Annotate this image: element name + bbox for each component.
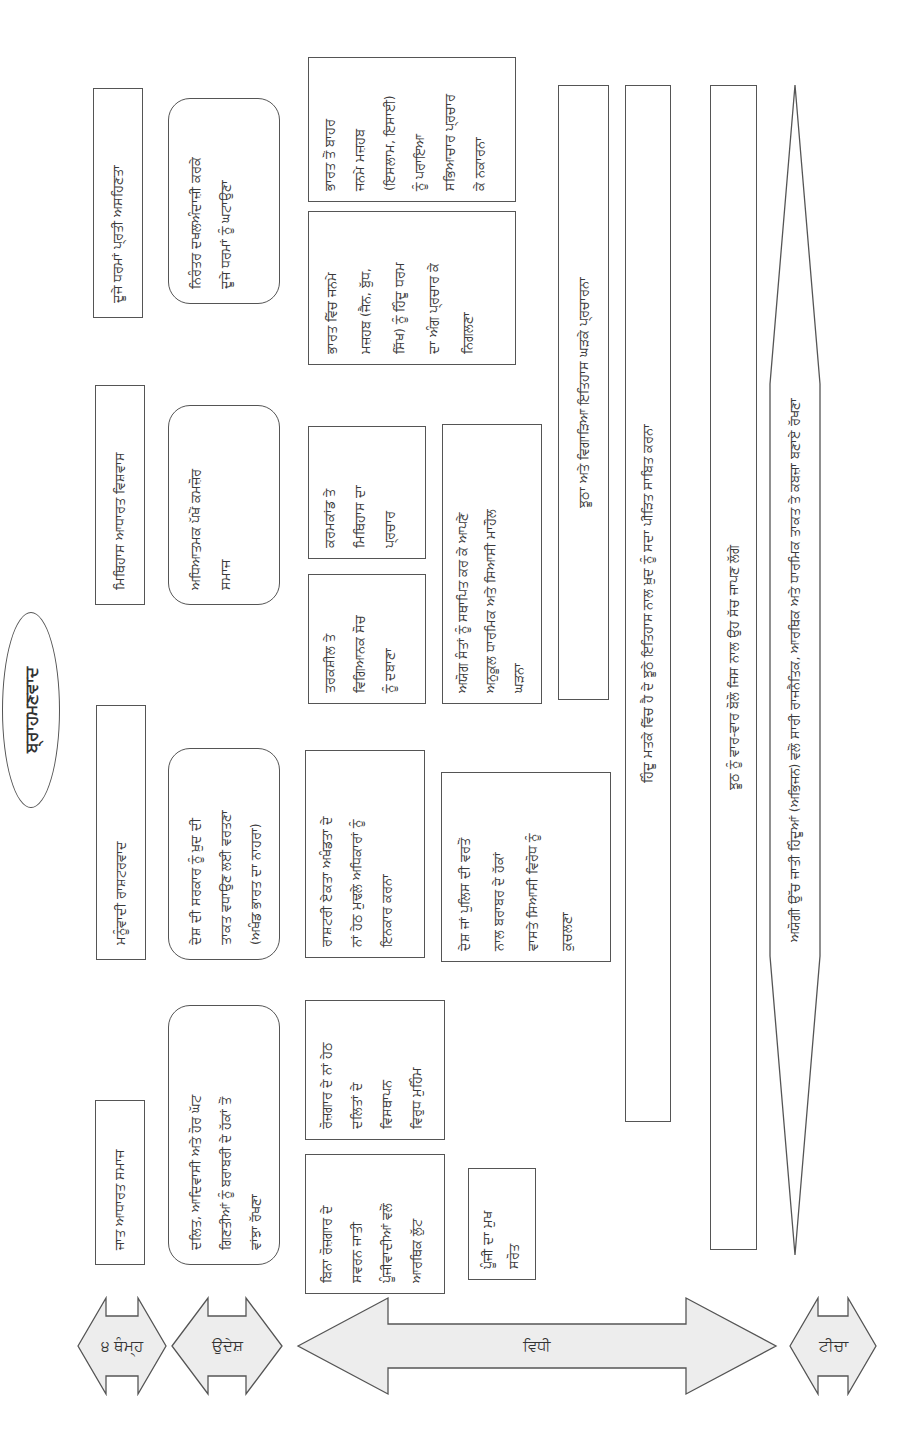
method-line: ਕਰਮਕਾਂਡ ਤੇ (315, 437, 345, 548)
objective-line: ਅਧਿਆਤਮਕ ਪੱਖੋਂ ਕਮਜ਼ੋਰ (181, 420, 211, 590)
method-line: ਪੂੰਜੀ ਦਾ ਮੁਖ (475, 1179, 501, 1269)
method-line: ਆਰਥਿਕ ਲੁੱਟ (402, 1165, 432, 1283)
objective-line: ਨਿਰੰਤਰ ਦਖਲਅੰਦਾਜ਼ੀ ਕਰਕੇ (181, 113, 211, 289)
method-line: ਸਭਿਆਚਾਰ ਪ੍ਰਚਾਰ (435, 68, 465, 191)
objective-reduce-other-religions: ਨਿਰੰਤਰ ਦਖਲਅੰਦਾਜ਼ੀ ਕਰਕੇ ਦੂਜੇ ਧਰਮਾਂ ਨੂੰ ਘਟ… (168, 98, 280, 304)
pillar-label: ਮਨੂੰਵਾਦੀ ਰਾਸ਼ਟਰਵਾਦ (113, 841, 129, 945)
objective-line: ਤਾਕਤ ਵਧਾਉਣ ਲਈ ਵਰਤਣਾ (211, 763, 241, 945)
method-line: ਤਰਕਸ਼ੀਲ ਤੇ (315, 585, 345, 693)
method-line: ਕੇ ਨਕਾਰਨਾ (465, 68, 495, 191)
method-line: ਅਨੁਕੂਲ ਧਾਰਮਿਕ ਅਤੇ ਸਿਆਸੀ ਮਾਹੌਲ (477, 435, 505, 693)
bar-label: ਝੂਠ ਨੂੰ ਵਾਰ-ਵਾਰ ਬੋਲੋ ਜਿਸ ਨਾਲ ਉਹ ਸੱਚ ਜਾਪਣ… (726, 545, 742, 790)
method-deny-basic-rights: ਰਾਸ਼ਟਰੀ ਏਕਤਾ ਅਖੰਡਤਾ ਦੇ ਨਾਂ ਹੇਠ ਮੁਢਲੇ ਅਧਿ… (305, 750, 425, 958)
method-line: ਘੜਨਾ (505, 435, 533, 693)
method-line: ਕੁਚਲਣਾ (550, 783, 584, 951)
method-economic-loot: ਬਿਨਾ ਰੋਜ਼ਗਾਰ ਦੇ ਸਵਰਨ ਜਾਤੀ ਪੂੰਜੀਵਾਦੀਆਂ ਵਲ… (305, 1154, 445, 1294)
objective-line: ਸਮਾਜ (211, 420, 241, 590)
objective-weak-society: ਅਧਿਆਤਮਕ ਪੱਖੋਂ ਕਮਜ਼ੋਰ ਸਮਾਜ (168, 405, 280, 605)
method-line: ਸਰੋਤ (501, 1179, 527, 1269)
method-crush-opposition: ਦੇਸ਼ ਜਾਂ ਪੁਲਿਸ ਦੀ ਵਰਤੋਂ ਨਾਲ ਬਰਾਬਰ ਦੇ ਹੱਕ… (441, 772, 611, 962)
objective-use-government: ਦੇਸ਼ ਦੀ ਸਰਕਾਰ ਨੂੰ ਖ਼ੁਦ ਦੀ ਤਾਕਤ ਵਧਾਉਣ ਲਈ … (168, 748, 280, 960)
method-line: ਮਿਥਿਹਾਸ ਦਾ (345, 437, 375, 548)
bar-victimhood-narrative: ਹਿੰਦੂ ਮਤਕੇ ਵਿੱਚ ਹੈ ਦੇ ਝੂਠੇ ਇਤਿਹਾਸ ਨਾਲ ਖ਼… (625, 85, 671, 1122)
method-line: ਇਨਕਾਰ ਕਰਨਾ (372, 761, 402, 947)
target-arrow: ਟੀਚਾ (788, 1296, 878, 1396)
bar-label: ਹਿੰਦੂ ਮਤਕੇ ਵਿੱਚ ਹੈ ਦੇ ਝੂਠੇ ਇਤਿਹਾਸ ਨਾਲ ਖ਼… (640, 424, 656, 784)
method-arrow: ਵਿਧੀ (296, 1296, 778, 1396)
objective-line: ਦਲਿਤ, ਆਦਿਵਾਸੀ ਅਤੇ ਹੋਰ ਘੱਟ (181, 1020, 211, 1250)
objectives-arrow: ਉਦੇਸ਼ (170, 1296, 284, 1396)
method-line: ਪ੍ਰਚਾਰ (375, 437, 405, 548)
method-line: ਰੋਜ਼ਗਾਰ ਦੇ ਨਾਂ ਹੇਠ (312, 1011, 342, 1129)
method-line: ਨੂੰ ਦਬਾਣਾ (375, 585, 405, 693)
method-line: ਨਾਲ ਬਰਾਬਰ ਦੇ ਹੱਕਾਂ (482, 783, 516, 951)
method-ritual-propaganda: ਕਰਮਕਾਂਡ ਤੇ ਮਿਥਿਹਾਸ ਦਾ ਪ੍ਰਚਾਰ (308, 426, 426, 559)
method-line: ਅਯੋਗ ਸੰਤਾਂ ਨੂੰ ਸਥਾਪਿਤ ਕਰ ਕੇ ਆਪਣੇ (449, 435, 477, 693)
method-absorb-indian-religions: ਭਾਰਤ ਵਿੱਚ ਜਨਮੇ ਮਜ਼ਹਬ (ਜੈਨ, ਬੁੱਧ, ਸਿੱਖ) ਨ… (308, 211, 516, 365)
method-line: ਮਜ਼ਹਬ (ਜੈਨ, ਬੁੱਧ, (349, 222, 383, 354)
method-line: ਨਾਂ ਹੇਠ ਮੁਢਲੇ ਅਧਿਕਾਰਾਂ ਨੂੰ (342, 761, 372, 947)
bar-repeat-lies: ਝੂਠ ਨੂੰ ਵਾਰ-ਵਾਰ ਬੋਲੋ ਜਿਸ ਨਾਲ ਉਹ ਸੱਚ ਜਾਪਣ… (710, 85, 757, 1250)
objective-line: ਵਾਂਝਾ ਰੱਖਣਾ (241, 1020, 271, 1250)
method-line: ਸਿੱਖ) ਨੂੰ ਹਿੰਦੂ ਧਰਮ (383, 222, 417, 354)
bar-false-history: ਝੂਠਾ ਅਤੇ ਵਿਗਾੜਿਆ ਇਤਿਹਾਸ ਘੜਕੇ ਪ੍ਰਚਾਰਨਾ (558, 85, 609, 700)
method-line: (ਇਸਲਾਮ, ਇਸਾਈ) (375, 68, 405, 191)
pillar-label: ਜਾਤ ਆਧਾਰਤ ਸਮਾਜ (112, 1150, 128, 1250)
method-line: ਦੇਸ਼ ਜਾਂ ਪੁਲਿਸ ਦੀ ਵਰਤੋਂ (448, 783, 482, 951)
diagram-title: ਬ੍ਰਾਹਮਣਵਾਦ (2, 612, 60, 808)
method-line: ਬਿਨਾ ਰੋਜ਼ਗਾਰ ਦੇ (312, 1165, 342, 1283)
method-line: ਦਲਿਤਾਂ ਦੇ (342, 1011, 372, 1129)
method-line: ਜਨਮੇ ਮਜ਼ਹਬ (345, 68, 375, 191)
objective-line: (ਅਖੰਡ ਭਾਰਤ ਦਾ ਨਾਹਰਾ) (241, 763, 271, 945)
pillars-arrow-label: ੪ ਥੰਮ੍ਹ (72, 1300, 172, 1392)
method-line: ਭਾਰਤ ਵਿੱਚ ਜਨਮੇ (315, 222, 349, 354)
method-line: ਭਾਰਤ ਤੋਂ ਬਾਹਰ (315, 68, 345, 191)
method-capital-source: ਪੂੰਜੀ ਦਾ ਮੁਖ ਸਰੋਤ (468, 1168, 536, 1280)
method-suppress-rational-thought: ਤਰਕਸ਼ੀਲ ਤੇ ਵਿਗਿਆਨਕ ਸੋਚ ਨੂੰ ਦਬਾਣਾ (308, 574, 426, 704)
method-install-saints: ਅਯੋਗ ਸੰਤਾਂ ਨੂੰ ਸਥਾਪਿਤ ਕਰ ਕੇ ਆਪਣੇ ਅਨੁਕੂਲ … (442, 424, 542, 704)
goal-label: ਅਯੋਗੀ ਉੱਚ ਜਾਤੀ ਹਿੰਦੂਆਂ (ਅਭਿਜਨ) ਵਲੋਂ ਸਾਰੀ… (768, 84, 822, 1256)
pillar-label: ਮਿਥਿਹਾਸ ਆਧਾਰਤ ਵਿਸ਼ਵਾਸ (112, 452, 128, 590)
method-line: ਨੂੰ ਪਰਾਇਆ (405, 68, 435, 191)
method-displacement: ਰੋਜ਼ਗਾਰ ਦੇ ਨਾਂ ਹੇਠ ਦਲਿਤਾਂ ਦੇ ਵਿਸਥਾਪਨ ਵਿਰ… (305, 1000, 445, 1140)
objective-line: ਗਿਣਤੀਆਂ ਨੂੰ ਬਰਾਬਰੀ ਦੇ ਹੱਕਾਂ ਤੋਂ (211, 1020, 241, 1250)
bar-label: ਝੂਠਾ ਅਤੇ ਵਿਗਾੜਿਆ ਇਤਿਹਾਸ ਘੜਕੇ ਪ੍ਰਚਾਰਨਾ (576, 277, 592, 508)
target-arrow-label: ਟੀਚਾ (783, 1301, 883, 1391)
method-line: ਰਾਸ਼ਟਰੀ ਏਕਤਾ ਅਖੰਡਤਾ ਦੇ (312, 761, 342, 947)
method-line: ਵਾਸਤੇ ਸਿਆਸੀ ਵਿਰੋਧ ਨੂੰ (516, 783, 550, 951)
method-arrow-label: ਵਿਧੀ (487, 1105, 587, 1456)
pillars-arrow: ੪ ਥੰਮ੍ਹ (76, 1296, 168, 1396)
pillar-manuvadi-nationalism: ਮਨੂੰਵਾਦੀ ਰਾਸ਼ਟਰਵਾਦ (96, 705, 146, 960)
goal-diamond: ਅਯੋਗੀ ਉੱਚ ਜਾਤੀ ਹਿੰਦੂਆਂ (ਅਭਿਜਨ) ਵਲੋਂ ਸਾਰੀ… (768, 84, 822, 1256)
method-line: ਵਿਰੁਧ ਮੁਹਿੰਮ (402, 1011, 432, 1129)
pillar-label: ਦੂਜੇ ਧਰਮਾਂ ਪ੍ਰਤੀ ਅਸਹਿਣਤਾ (110, 165, 126, 303)
method-line: ਵਿਸਥਾਪਨ (372, 1011, 402, 1129)
method-line: ਦਾ ਅੰਗ ਪ੍ਰਚਾਰ ਕੇ (417, 222, 451, 354)
objective-line: ਦੂਜੇ ਧਰਮਾਂ ਨੂੰ ਘਟਾਉਣਾ (211, 113, 241, 289)
objectives-arrow-label: ਉਦੇਸ਼ (177, 1289, 277, 1403)
method-line: ਨਿਗਲਣਾ (451, 222, 485, 354)
pillar-mythology-belief: ਮਿਥਿਹਾਸ ਆਧਾਰਤ ਵਿਸ਼ਵਾਸ (95, 385, 145, 605)
pillar-religious-intolerance: ਦੂਜੇ ਧਰਮਾਂ ਪ੍ਰਤੀ ਅਸਹਿਣਤਾ (93, 88, 143, 318)
method-line: ਵਿਗਿਆਨਕ ਸੋਚ (345, 585, 375, 693)
objective-deny-equal-rights: ਦਲਿਤ, ਆਦਿਵਾਸੀ ਅਤੇ ਹੋਰ ਘੱਟ ਗਿਣਤੀਆਂ ਨੂੰ ਬਰ… (168, 1005, 280, 1265)
title-text: ਬ੍ਰਾਹਮਣਵਾਦ (21, 667, 41, 753)
method-line: ਸਵਰਨ ਜਾਤੀ (342, 1165, 372, 1283)
objective-line: ਦੇਸ਼ ਦੀ ਸਰਕਾਰ ਨੂੰ ਖ਼ੁਦ ਦੀ (181, 763, 211, 945)
method-line: ਪੂੰਜੀਵਾਦੀਆਂ ਵਲੋਂ (372, 1165, 402, 1283)
method-reject-foreign-religions: ਭਾਰਤ ਤੋਂ ਬਾਹਰ ਜਨਮੇ ਮਜ਼ਹਬ (ਇਸਲਾਮ, ਇਸਾਈ) ਨ… (308, 57, 516, 202)
brahmanism-diagram: ਬ੍ਰਾਹਮਣਵਾਦ ੪ ਥੰਮ੍ਹ ਉਦੇਸ਼ ਵਿਧੀ ਟੀਚਾ ਜਾਤ ਆ… (0, 0, 905, 1456)
pillar-caste-society: ਜਾਤ ਆਧਾਰਤ ਸਮਾਜ (95, 1100, 145, 1265)
